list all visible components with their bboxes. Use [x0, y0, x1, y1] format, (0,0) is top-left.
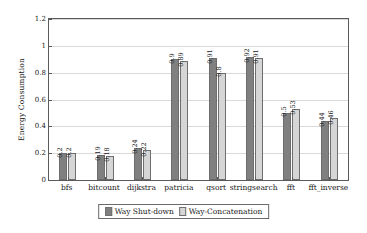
x-axis-tick-label: dijkstra	[127, 184, 156, 192]
y-axis-tick-label: 1	[42, 42, 46, 49]
bar-value-label: 0.8	[215, 67, 222, 77]
bar-group: 0.90.89	[171, 19, 188, 180]
energy-consumption-bar-chart: Energy Consumption 00.20.40.60.811.2 0.2…	[0, 0, 367, 233]
bar-value-label: 0.18	[103, 148, 110, 162]
bar-value-label: 0.5	[281, 107, 288, 117]
bar-value-label: 0.46	[327, 110, 334, 124]
x-axis-tick-mark	[180, 177, 181, 180]
x-axis-tick-label: qsort	[206, 184, 226, 192]
bar-value-label: 0.2	[66, 147, 73, 157]
bar: 0.18	[106, 156, 114, 180]
y-axis-tick-label: 0.2	[35, 150, 46, 157]
y-axis-tick-label: 0.4	[35, 123, 46, 130]
y-axis-tick-label: 0.8	[35, 69, 46, 76]
bar: 0.46	[330, 118, 338, 180]
bar-value-label: 0.91	[206, 50, 213, 64]
bar-series-layer: 0.20.20.190.180.240.220.90.890.910.80.92…	[49, 19, 348, 180]
x-axis-tick-label: patricia	[164, 184, 193, 192]
y-axis-title: Energy Consumption	[14, 18, 28, 181]
bar-value-label: 0.22	[140, 142, 147, 156]
bar: 0.92	[246, 57, 254, 180]
x-axis-tick-mark	[292, 177, 293, 180]
legend-swatch-icon-series-2	[179, 207, 186, 216]
bar-group: 0.240.22	[134, 19, 151, 180]
bar-group: 0.20.2	[59, 19, 76, 180]
x-axis-tick-mark	[68, 177, 69, 180]
legend-entry-series-2: Way-Concatenation	[179, 207, 263, 216]
bar-value-label: 0.91	[253, 50, 260, 64]
bar: 0.89	[180, 61, 188, 180]
y-axis-tick-label: 1.2	[35, 16, 46, 23]
x-axis-tick-label: stringsearch	[230, 184, 278, 192]
x-axis-tick-mark	[105, 177, 106, 180]
bar-value-label: 0.53	[290, 101, 297, 115]
bar-group: 0.190.18	[97, 19, 114, 180]
x-axis-tick-label: fft_inverse	[308, 184, 348, 192]
y-axis-tick-mark	[49, 180, 52, 181]
y-axis-title-text: Energy Consumption	[17, 58, 26, 141]
x-axis-tick-mark	[142, 177, 143, 180]
bar-group: 0.910.8	[209, 19, 226, 180]
plot-area: 00.20.40.60.811.2 0.20.20.190.180.240.22…	[48, 18, 349, 181]
x-axis-tick-label: bitcount	[88, 184, 120, 192]
x-axis-tick-label: bfs	[61, 184, 72, 192]
bar-group: 0.440.46	[321, 19, 338, 180]
legend-label-series-1: Way Shut-down	[115, 208, 174, 216]
chart-legend: Way Shut-down Way-Concatenation	[98, 204, 270, 219]
y-axis-tick-label: 0	[42, 177, 46, 184]
bar: 0.22	[143, 150, 151, 180]
bar: 0.44	[321, 121, 329, 180]
bar: 0.8	[218, 73, 226, 180]
x-axis-tick-mark	[255, 177, 256, 180]
x-axis-tick-label: fft	[287, 184, 295, 192]
bar-value-label: 0.89	[178, 52, 185, 66]
legend-swatch-icon-series-1	[105, 207, 112, 216]
bar-value-label: 0.19	[94, 146, 101, 160]
bar-value-label: 0.24	[131, 140, 138, 154]
bar-value-label: 0.9	[169, 53, 176, 63]
bar: 0.2	[68, 153, 76, 180]
legend-label-series-2: Way-Concatenation	[189, 208, 263, 216]
bar: 0.9	[171, 59, 179, 180]
bar-group: 0.50.53	[283, 19, 300, 180]
bar: 0.5	[283, 113, 291, 180]
x-axis-tick-mark	[329, 177, 330, 180]
legend-entry-series-1: Way Shut-down	[105, 207, 174, 216]
bar: 0.53	[292, 109, 300, 180]
y-axis-tick-label: 0.6	[35, 96, 46, 103]
bar-group: 0.920.91	[246, 19, 263, 180]
bar-value-label: 0.2	[57, 147, 64, 157]
bar: 0.91	[255, 58, 263, 180]
bar-value-label: 0.92	[244, 48, 251, 62]
x-axis-tick-mark	[217, 177, 218, 180]
bar-value-label: 0.44	[318, 113, 325, 127]
